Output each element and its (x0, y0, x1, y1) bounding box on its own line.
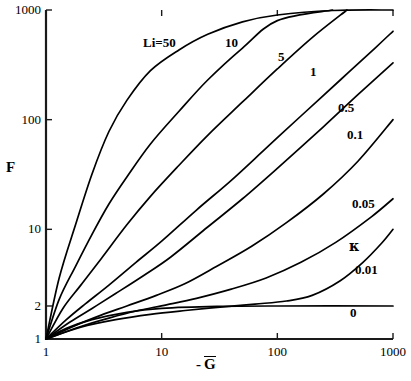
curve-label-10: 10 (225, 36, 238, 49)
y-axis-label: F (6, 160, 15, 175)
axis-frame (46, 10, 393, 339)
x-axis-label-prefix: - (196, 356, 201, 372)
x-tick-label: 10 (142, 345, 182, 358)
y-tick-label: 10 (0, 222, 41, 235)
y-tick-label: 1 (0, 332, 41, 345)
curve-label-0-5: 0.5 (338, 101, 354, 114)
y-tick-label: 2 (0, 299, 41, 312)
y-tick-label: 1000 (0, 3, 41, 16)
x-tick-label: 1 (26, 345, 66, 358)
curve-label-0-01: 0.01 (355, 263, 378, 276)
x-axis-label-symbol: G (204, 357, 216, 372)
axis-ticks (46, 10, 393, 339)
plot-svg (0, 0, 411, 381)
curve-label-0: 0 (350, 306, 357, 319)
curve-label-0-1: 0.1 (347, 128, 363, 141)
curve-0-01 (46, 229, 393, 339)
curve-label--: κ (349, 239, 360, 253)
curve-label-1: 1 (310, 65, 317, 78)
y-tick-label: 100 (0, 113, 41, 126)
x-axis-label: -G (196, 357, 216, 372)
curve-label-0-05: 0.05 (352, 197, 375, 210)
curve-label-li-50: Li=50 (143, 36, 176, 49)
curve-10 (46, 10, 333, 339)
curve-label-5: 5 (278, 50, 285, 63)
x-tick-label: 1000 (373, 345, 411, 358)
data-curves (46, 10, 393, 339)
figure-log-log-plot: F -G 1101001000 12101001000 Li=5010510.5… (0, 0, 411, 381)
x-tick-label: 100 (257, 345, 297, 358)
curve-li-50 (46, 10, 393, 339)
